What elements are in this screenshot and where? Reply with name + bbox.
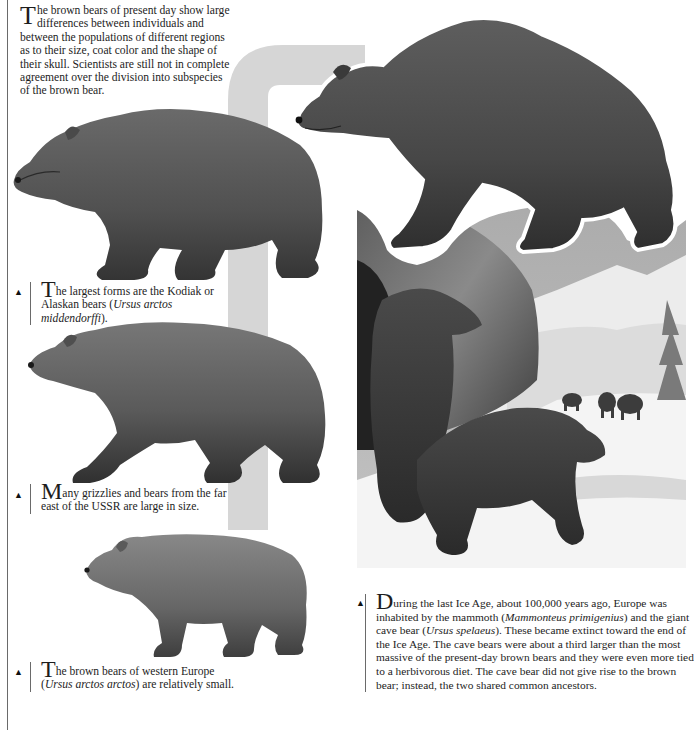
caption-marker-icon: ▲	[14, 491, 23, 500]
cave-bear-large-illustration	[293, 10, 686, 260]
intro-paragraph: The brown bears of present day show larg…	[20, 4, 232, 98]
intro-dropcap: T	[20, 7, 36, 25]
european-brown-bear-illustration	[82, 525, 312, 660]
intro-text: he brown bears of present day show large…	[20, 4, 230, 97]
caption-european: The brown bears of western Europe (Ursus…	[30, 662, 241, 692]
ice-age-paragraph: During the last Ice Age, about 100,000 y…	[365, 594, 694, 692]
caption-grizzly: Many grizzlies and bears from the far ea…	[30, 484, 241, 514]
caption-marker-icon: ▲	[14, 288, 23, 297]
caption-marker-icon: ▲	[356, 599, 365, 608]
kodiak-bear-illustration	[10, 100, 330, 285]
caption-marker-icon: ▲	[14, 668, 23, 677]
grizzly-bear-illustration	[25, 315, 330, 490]
